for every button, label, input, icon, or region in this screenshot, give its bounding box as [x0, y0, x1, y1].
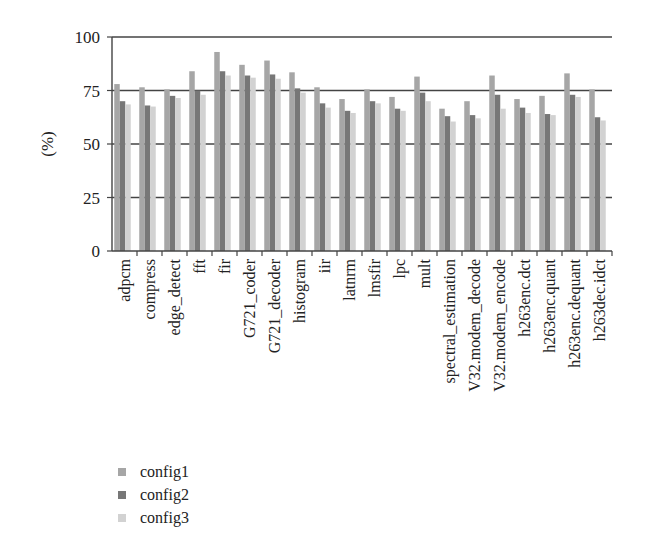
bar-config2-mult — [420, 93, 426, 251]
bar-config1-h263enc.dequant — [564, 73, 570, 251]
x-category-label: G721_coder — [241, 258, 258, 338]
bar-config3-h263dec.idct — [600, 120, 606, 251]
bar-config2-lmsfir — [370, 101, 376, 251]
bar-config1-G721_coder — [239, 65, 245, 251]
bar-config3-fir — [225, 76, 231, 251]
bar-config3-edge_detect — [175, 98, 181, 251]
bar-config3-mult — [425, 101, 431, 251]
bar-config1-lpc — [389, 97, 395, 251]
bar-config1-G721_decoder — [264, 61, 270, 251]
bar-config1-histogram — [289, 72, 295, 251]
axes — [107, 37, 612, 256]
bar-config3-h263enc.dct — [525, 113, 531, 251]
bar-config1-edge_detect — [164, 89, 170, 251]
bar-config1-mult — [414, 77, 420, 251]
bar-config3-fft — [200, 95, 206, 251]
bar-config1-V32.modem_encode — [489, 76, 495, 251]
bar-config2-fir — [220, 71, 226, 251]
bar-config3-V32.modem_decode — [475, 118, 481, 251]
x-category-label: mult — [416, 258, 433, 288]
x-category-label: compress — [141, 259, 159, 319]
y-tick-label: 75 — [83, 82, 100, 101]
bar-config3-lmsfir — [375, 103, 381, 251]
bar-config2-lpc — [395, 109, 401, 251]
config1-swatch-icon — [118, 468, 126, 476]
bar-config1-latnrm — [339, 99, 345, 251]
x-category-label: lmsfir — [366, 258, 383, 297]
config3-swatch-icon — [118, 514, 126, 522]
bar-config2-fft — [195, 91, 201, 252]
bar-config2-h263enc.dequant — [570, 95, 576, 251]
x-category-label: adpcm — [116, 258, 134, 301]
bar-config1-lmsfir — [364, 89, 370, 251]
legend-item-config1: config1 — [118, 460, 189, 483]
x-category-label: h263enc.dequant — [566, 258, 584, 367]
bar-config1-compress — [139, 87, 145, 251]
y-axis-label: (%) — [38, 131, 57, 156]
bar-config3-spectral_estimation — [450, 122, 456, 251]
legend-label: config2 — [140, 486, 189, 504]
bar-config2-histogram — [295, 88, 301, 251]
x-category-label: V32.modem_encode — [491, 259, 508, 392]
bar-config2-spectral_estimation — [445, 116, 451, 251]
bar-config3-adpcm — [125, 104, 131, 251]
y-tick-label: 25 — [83, 189, 100, 208]
y-tick-label: 50 — [83, 135, 100, 154]
bar-config1-fir — [214, 52, 220, 251]
x-category-label: edge_detect — [166, 258, 184, 335]
x-category-label: lpc — [391, 259, 409, 279]
legend-label: config3 — [140, 509, 189, 527]
y-tick-labels: 0255075100 — [75, 28, 101, 261]
bar-config1-adpcm — [114, 84, 120, 251]
bar-config2-h263enc.dct — [520, 108, 526, 251]
x-category-label: iir — [316, 258, 333, 273]
bars — [114, 52, 606, 251]
bar-config1-h263enc.quant — [539, 96, 545, 251]
x-category-label: V32.modem_decode — [466, 259, 483, 392]
bar-config2-latnrm — [345, 111, 351, 251]
x-category-label: h263enc.quant — [541, 258, 559, 352]
bar-config3-latnrm — [350, 113, 356, 251]
bar-config3-iir — [325, 108, 331, 251]
config2-swatch-icon — [118, 491, 126, 499]
bar-config1-V32.modem_decode — [464, 101, 470, 251]
x-category-label: h263dec.idct — [591, 258, 608, 341]
bar-config3-h263enc.quant — [550, 115, 556, 251]
bar-config1-spectral_estimation — [439, 109, 445, 251]
bar-config2-V32.modem_decode — [470, 115, 476, 251]
legend: config1 config2 config3 — [118, 460, 189, 529]
bar-config1-h263enc.dct — [514, 99, 520, 251]
bar-config2-adpcm — [120, 101, 126, 251]
bar-config2-compress — [145, 105, 151, 251]
bar-config2-G721_coder — [245, 76, 251, 251]
bar-config2-V32.modem_encode — [495, 95, 501, 251]
bar-config2-iir — [320, 103, 326, 251]
gridlines — [112, 37, 612, 198]
x-category-label: fft — [191, 258, 208, 273]
bar-config3-h263enc.dequant — [575, 97, 581, 251]
x-category-labels: adpcmcompressedge_detectfftfirG721_coder… — [116, 258, 608, 392]
bar-config3-V32.modem_encode — [500, 109, 506, 251]
bar-config3-G721_coder — [250, 78, 256, 251]
bar-config1-h263dec.idct — [589, 89, 595, 251]
bar-chart: 0255075100 adpcmcompressedge_detectfftfi… — [0, 0, 655, 460]
bar-config2-edge_detect — [170, 96, 176, 251]
x-category-label: spectral_estimation — [441, 259, 459, 383]
bar-config3-lpc — [400, 111, 406, 251]
bar-config1-iir — [314, 87, 320, 251]
bar-config2-G721_decoder — [270, 74, 276, 251]
x-category-label: histogram — [291, 258, 309, 323]
legend-item-config2: config2 — [118, 483, 189, 506]
bar-config2-h263enc.quant — [545, 114, 551, 251]
x-category-label: G721_decoder — [266, 258, 283, 353]
x-category-label: h263enc.dct — [516, 258, 533, 336]
x-category-label: fir — [216, 258, 233, 274]
bar-config1-fft — [189, 71, 195, 251]
x-category-label: latnrm — [341, 258, 358, 300]
bar-config3-histogram — [300, 93, 306, 251]
y-tick-label: 0 — [92, 242, 101, 261]
y-tick-label: 100 — [75, 28, 101, 47]
legend-item-config3: config3 — [118, 506, 189, 529]
bar-config3-compress — [150, 107, 156, 251]
legend-label: config1 — [140, 463, 189, 481]
